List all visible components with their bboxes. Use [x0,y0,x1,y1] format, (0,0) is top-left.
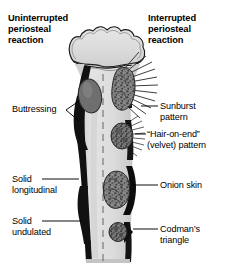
codman-mass-body [109,223,127,242]
sunburst-mass-body [112,67,135,110]
label-solid-undulated: Solid undulated [12,216,51,239]
label-buttressing: Buttressing [12,104,56,115]
bone-distal-end [86,259,130,263]
label-hair-on-end-velvet-pattern: “Hair-on-end” (velvet) pattern [147,129,206,152]
header-uninterrupted-periosteal-reaction: Uninterrupted periosteal reaction [8,13,68,47]
onion-skin-mass [103,171,129,208]
hair-on-end-mass-body [111,123,133,149]
bone-body [69,27,144,263]
label-sunburst-pattern: Sunburst pattern [160,101,196,124]
label-codmans-triangle: Codman’s triangle [160,224,200,247]
periosteal-reaction-diagram: Uninterrupted periosteal reaction Interr… [0,0,227,275]
header-interrupted-periosteal-reaction: Interrupted periosteal reaction [148,13,196,47]
label-solid-longitudinal: Solid longitudinal [12,174,57,197]
label-onion-skin: Onion skin [160,180,202,191]
onion-skin-mass-body [103,171,129,208]
